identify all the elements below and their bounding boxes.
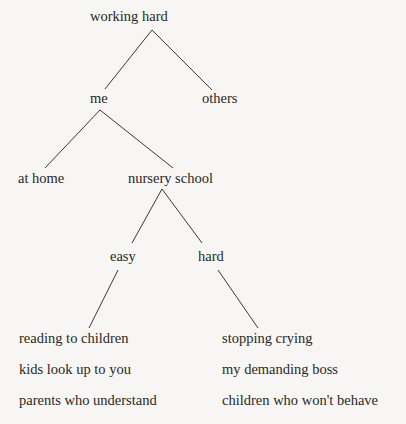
hard-item: stopping crying [222, 330, 313, 346]
hard-item: my demanding boss [222, 361, 338, 377]
node-nursery-school: nursery school [128, 170, 213, 186]
easy-item: kids look up to you [19, 361, 131, 377]
node-me: me [90, 90, 108, 106]
node-others: others [202, 90, 237, 106]
edge-me-at-home [45, 110, 100, 168]
edge-hard-stopping [218, 270, 258, 328]
node-working-hard: working hard [90, 8, 168, 24]
edge-nursery-hard [162, 189, 202, 243]
edge-root-me [105, 30, 152, 89]
hard-item: children who won't behave [222, 392, 378, 408]
node-at-home: at home [18, 170, 64, 186]
edge-me-nursery [100, 110, 173, 168]
easy-item: reading to children [19, 330, 129, 346]
edge-root-others [152, 30, 212, 90]
edge-easy-reading [89, 270, 118, 328]
easy-item: parents who understand [19, 392, 157, 408]
node-hard: hard [198, 248, 224, 264]
node-easy: easy [110, 248, 136, 264]
edge-nursery-easy [132, 189, 162, 243]
